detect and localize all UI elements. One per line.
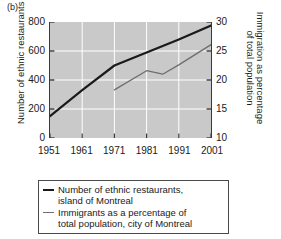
y-tick-left-0: 0: [18, 133, 45, 143]
legend-entry-label: Number of ethnic restaurants,island of M…: [58, 184, 183, 206]
y-tick-right-15: 15: [216, 104, 236, 114]
y-axis-ticks-right: 1015202530: [216, 22, 236, 138]
y-axis-title-right-line-1: Immigration as percentage: [255, 8, 265, 128]
chart-figure: Number of ethnic restaurants 02004006008…: [0, 14, 281, 170]
series-line-1: [50, 26, 211, 117]
legend-label-line: island of Montreal: [58, 195, 183, 206]
y-tick-right-30: 30: [216, 17, 236, 27]
x-axis-ticks: 195119611971198119912001: [49, 145, 212, 159]
y-tick-right-25: 25: [216, 46, 236, 56]
y-tick-left-200: 200: [18, 104, 45, 114]
chart-legend: Number of ethnic restaurants,island of M…: [38, 180, 229, 234]
data-series-group: [50, 26, 211, 117]
legend-entry-1: Number of ethnic restaurants,island of M…: [43, 184, 224, 206]
legend-line-swatch-icon: [43, 212, 54, 213]
y-tick-right-10: 10: [216, 133, 236, 143]
plot-svg: [50, 22, 211, 138]
plot-area: [49, 22, 212, 138]
y-axis-title-right: Immigration as percentageof total popula…: [245, 8, 265, 128]
legend-label-line: Immigrants as a percentage of: [58, 207, 192, 218]
legend-entry-2: Immigrants as a percentage oftotal popul…: [43, 207, 224, 229]
y-axis-title-right-line-2: of total population: [245, 8, 255, 128]
y-axis-ticks-left: 0200400600800: [18, 22, 45, 138]
y-tick-left-400: 400: [18, 75, 45, 85]
y-tick-right-20: 20: [216, 75, 236, 85]
x-tick-2001: 2001: [192, 145, 232, 157]
legend-line-swatch-icon: [43, 189, 54, 191]
legend-entry-label: Immigrants as a percentage oftotal popul…: [58, 207, 192, 229]
y-tick-left-800: 800: [18, 17, 45, 27]
legend-label-line: total population, city of Montreal: [58, 218, 192, 229]
y-tick-left-600: 600: [18, 46, 45, 56]
legend-label-line: Number of ethnic restaurants,: [58, 184, 183, 195]
